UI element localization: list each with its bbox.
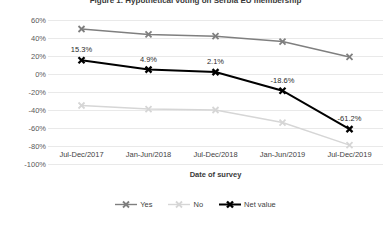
data-point-marker — [347, 126, 353, 132]
y-axis-tick-label: -60% — [2, 124, 46, 133]
y-axis-tick-label: -80% — [2, 142, 46, 151]
chart-container: Figure 1. Hypothetical voting on Serbia … — [0, 0, 391, 225]
data-point-label: -61.2% — [338, 114, 362, 123]
series-layer — [48, 20, 383, 164]
legend-marker-icon — [115, 200, 137, 209]
y-axis-tick-label: -20% — [2, 88, 46, 97]
series-line — [82, 106, 350, 146]
y-axis-tick-label: 0% — [2, 70, 46, 79]
x-axis-tick-label: Jul-Dec/2019 — [327, 150, 371, 159]
x-axis-tick-label: Jan-Jun/2019 — [260, 150, 305, 159]
legend-label: Net value — [244, 200, 276, 209]
y-axis-tick-label: -100% — [2, 160, 46, 169]
legend-item-yes[interactable]: Yes — [115, 200, 152, 209]
legend-item-no[interactable]: No — [168, 200, 203, 209]
data-point-label: 4.9% — [140, 55, 157, 64]
legend-label: No — [193, 200, 203, 209]
legend-marker-icon — [219, 200, 241, 209]
legend-item-net-value[interactable]: Net value — [219, 200, 276, 209]
x-axis-tick-label: Jul-Dec/2017 — [59, 150, 103, 159]
data-point-label: 15.3% — [71, 45, 92, 54]
data-point-label: 2.1% — [207, 57, 224, 66]
chart-legend: YesNoNet value — [0, 200, 391, 209]
plot-area: 15.3%4.9%2.1%-18.6%-61.2% — [48, 20, 383, 164]
y-axis-tick-label: 40% — [2, 34, 46, 43]
chart-title: Figure 1. Hypothetical voting on Serbia … — [0, 0, 391, 5]
legend-label: Yes — [140, 200, 152, 209]
data-point-label: -18.6% — [271, 76, 295, 85]
y-axis-tick-label: -40% — [2, 106, 46, 115]
y-axis-tick-label: 20% — [2, 52, 46, 61]
series-line — [82, 29, 350, 57]
legend-marker-icon — [168, 200, 190, 209]
x-axis-tick-label: Jan-Jun/2018 — [126, 150, 171, 159]
y-axis-tick-label: 60% — [2, 16, 46, 25]
gridline — [48, 164, 383, 165]
x-axis-title: Date of survey — [48, 170, 383, 179]
x-axis-tick-label: Jul-Dec/2018 — [193, 150, 237, 159]
